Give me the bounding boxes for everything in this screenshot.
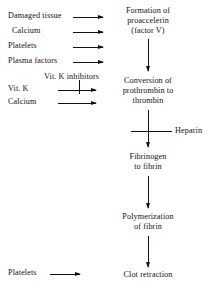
node-formation-of-proaccelerin: Formation of proaccelerin (factor V) (112, 6, 184, 36)
conversion-line-1: Conversion of (110, 76, 186, 86)
arrow-formation-to-conversion (148, 39, 149, 71)
formation-line-2: proaccelerin (112, 16, 184, 26)
arrow-calcium-mid-to-conversion (58, 103, 96, 104)
arrow-platelets-top-to-formation (73, 47, 103, 48)
label-heparin: Heparin (175, 126, 202, 136)
inhibition-line-heparin (131, 131, 172, 132)
label-vit-k-inhibitors: Vit. K inhibitors (44, 72, 99, 82)
node-polymerization-of-fibrin: Polymerization of fibrin (108, 212, 188, 232)
arrow-vit-k-to-conversion (58, 90, 96, 91)
label-calcium-mid: Calcium (8, 97, 36, 107)
node-fibrinogen-to-fibrin: Fibrinogen to fibrin (112, 152, 184, 172)
arrow-damaged-tissue-to-formation (73, 17, 103, 18)
label-calcium-top: Calcium (12, 26, 40, 36)
fibrinogen-line-1: Fibrinogen (112, 152, 184, 162)
polymerization-line-1: Polymerization (108, 212, 188, 222)
arrow-platelets-bottom-to-clot-retraction (50, 274, 80, 275)
label-plasma-factors: Plasma factors (8, 56, 57, 66)
conversion-line-3: thrombin (110, 96, 186, 106)
node-clot-retraction: Clot retraction (112, 270, 184, 280)
formation-line-3: (factor V) (112, 26, 184, 36)
formation-line-1: Formation of (112, 6, 184, 16)
label-platelets-bottom: Platelets (8, 268, 37, 278)
conversion-line-2: prothrombin to (110, 86, 186, 96)
fibrinogen-line-2: to fibrin (112, 162, 184, 172)
arrow-fibrinogen-to-polymerization (148, 176, 149, 208)
label-damaged-tissue: Damaged tissue (8, 11, 61, 21)
arrow-calcium-top-to-formation (73, 32, 103, 33)
arrow-polymerization-to-clot-retraction (148, 236, 149, 267)
node-conversion-of-prothrombin: Conversion of prothrombin to thrombin (110, 76, 186, 106)
arrow-conversion-to-fibrinogen (148, 110, 149, 147)
label-vit-k: Vit. K (8, 84, 29, 94)
polymerization-line-2: of fibrin (108, 222, 188, 232)
label-platelets-top: Platelets (8, 41, 37, 51)
arrow-plasma-factors-to-formation (73, 62, 103, 63)
inhibition-line-vit-k-inhibitors (79, 80, 80, 94)
coagulation-cascade-diagram: Damaged tissue Calcium Platelets Plasma … (0, 0, 210, 290)
